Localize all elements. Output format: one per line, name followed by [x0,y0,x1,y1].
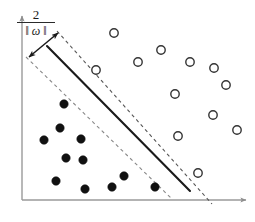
data-point-hollow [186,58,194,66]
data-point-filled [60,100,68,108]
lower-margin-line [26,57,172,199]
margin-numerator: 2 [14,8,58,22]
data-point-filled [62,154,70,162]
data-point-hollow [110,29,118,37]
decision-boundary-line [47,46,190,191]
support-vector-hollow-point [174,132,182,140]
upper-margin-line [57,31,212,204]
axes-group [22,16,246,200]
data-point-hollow [171,90,179,98]
data-point-filled [56,124,64,132]
data-point-hollow [233,126,241,134]
data-point-filled [40,136,48,144]
data-point-hollow [209,111,217,119]
support-vector-hollow-point [92,66,100,74]
data-point-filled [79,156,87,164]
data-point-hollow [134,58,142,66]
support-vector-hollow-point [194,169,202,177]
support-vector-filled-point [151,183,159,191]
data-point-hollow [210,64,218,72]
data-point-filled [81,185,89,193]
data-point-filled [77,135,85,143]
filled-circle-points-group [40,100,159,193]
data-point-filled [52,177,60,185]
hollow-circle-points-group [92,29,241,177]
margin-width-label: 2 ‖ ω ‖ [14,8,58,38]
data-point-hollow [157,46,165,54]
data-point-filled [108,183,116,191]
data-point-filled [120,172,128,180]
margin-denominator: ‖ ω ‖ [14,23,58,38]
data-point-hollow [222,81,230,89]
svm-margin-figure: 2 ‖ ω ‖ [0,0,255,222]
